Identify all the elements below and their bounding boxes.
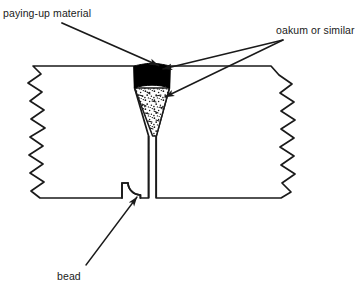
seam-gap	[149, 136, 157, 198]
paying-up-material-leader	[62, 23, 159, 66]
right-plank	[156, 66, 295, 198]
paying-up-material-cap	[134, 63, 170, 88]
bead-leader	[86, 197, 137, 265]
label-bead: bead	[57, 270, 81, 282]
figure-root: paying-up material oakum or similar bead	[0, 0, 359, 296]
left-plank-outline	[28, 66, 149, 198]
oakum-leader-upper	[163, 40, 283, 69]
label-paying-up-material: paying-up material	[3, 7, 91, 19]
label-oakum-or-similar: oakum or similar	[276, 24, 355, 36]
left-plank	[28, 66, 149, 198]
right-plank-outline	[156, 66, 295, 198]
seam-cross-section-drawing	[0, 0, 359, 296]
bead-notch-riser	[122, 183, 128, 198]
paying-up-wedge	[134, 63, 170, 88]
